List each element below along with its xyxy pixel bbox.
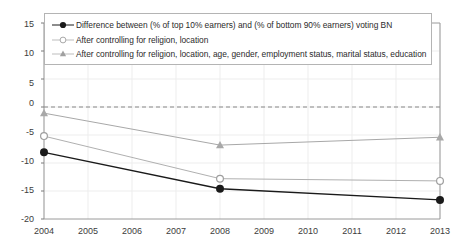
y-tick-label: -10 [8,156,34,166]
x-tick-label: 2007 [156,226,196,236]
filled-circle-marker-icon [50,18,76,32]
x-tick-label: 2012 [376,226,416,236]
x-tick-label: 2010 [288,226,328,236]
y-tick-label: 10 [8,48,34,58]
x-tick-label: 2006 [112,226,152,236]
x-tick-label: 2008 [200,226,240,236]
legend-item-difference: Difference between (% of top 10% earners… [50,18,426,33]
legend-item-full-controls: After controlling for religion, location… [50,47,426,62]
y-tick-label: -5 [8,127,34,137]
legend-item-religion-location: After controlling for religion, location [50,33,426,48]
x-tick-label: 2004 [24,226,64,236]
y-tick-label: -15 [8,185,34,195]
chart-figure: 15 10 5 0 -5 -10 -15 -20 2004 2005 2006 … [0,0,473,251]
legend-item-label: After controlling for religion, location… [76,49,426,59]
chart-legend: Difference between (% of top 10% earners… [44,13,432,65]
y-tick-label: 5 [8,78,34,88]
x-tick-label: 2005 [68,226,108,236]
y-tick-label: 15 [8,19,34,29]
y-tick-label: -20 [8,214,34,224]
x-tick-label: 2013 [420,226,460,236]
x-tick-label: 2009 [244,226,284,236]
x-tick-label: 2011 [332,226,372,236]
y-tick-label: 0 [8,98,34,108]
legend-item-label: After controlling for religion, location [76,35,208,45]
legend-item-label: Difference between (% of top 10% earners… [76,20,392,30]
open-circle-marker-icon [50,33,76,47]
filled-triangle-marker-icon [50,47,76,61]
